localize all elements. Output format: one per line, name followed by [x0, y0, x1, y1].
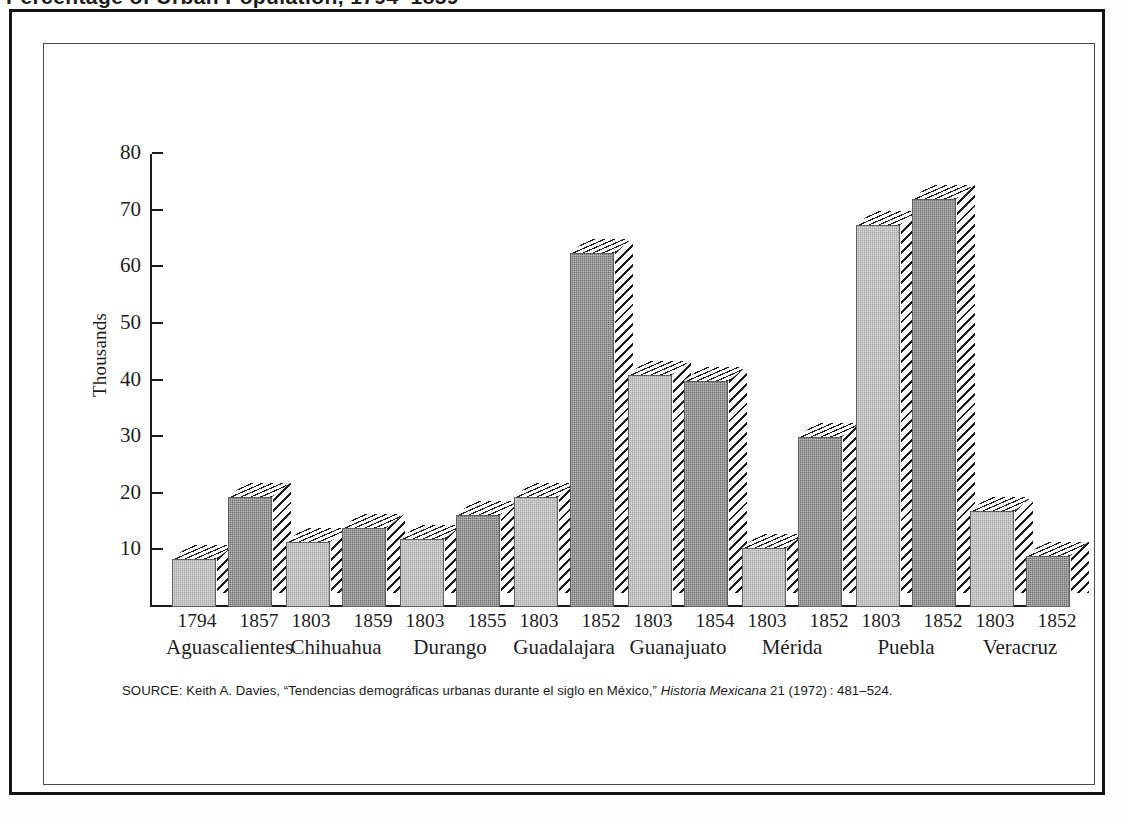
x-year-label: 1794 [166, 610, 228, 632]
x-city-label: Mérida [736, 635, 848, 660]
cut-off-heading: Percentage of Urban Population, 1794–185… [6, 0, 459, 9]
x-city-label: Chihuahua [280, 635, 392, 660]
x-city-label: Puebla [850, 635, 962, 660]
x-label-group-chihuahua: 18031859Chihuahua [280, 610, 392, 660]
x-city-label: Guanajuato [622, 635, 734, 660]
bar-group-aguascalientes [172, 154, 284, 607]
x-year-label: 1803 [280, 610, 342, 632]
bar-aguascalientes-1857 [228, 497, 272, 607]
source-suffix: 21 (1972) : 481–524. [766, 683, 892, 698]
y-tick-60: 60 [150, 265, 163, 267]
bar-front-face [628, 375, 672, 607]
bar-front-face [570, 253, 614, 607]
x-year-label: 1803 [736, 610, 798, 632]
bar-puebla-1803 [856, 225, 900, 607]
figure-outer-border: Thousands 1020304050607080 17941857Aguas… [9, 9, 1105, 795]
bar-guadalajara-1852 [570, 253, 614, 607]
x-year-labels: 18031852 [850, 610, 962, 632]
bar-front-face [1026, 556, 1070, 607]
x-label-group-aguascalientes: 17941857Aguascalientes [166, 610, 278, 660]
y-tick-mark [152, 209, 163, 211]
x-year-label: 1803 [622, 610, 684, 632]
source-prefix: SOURCE: Keith A. Davies, “Tendencias dem… [122, 683, 661, 698]
y-tick-mark [152, 548, 163, 550]
y-tick-label: 70 [120, 197, 141, 222]
x-label-group-mrida: 18031852Mérida [736, 610, 848, 660]
bar-front-face [912, 199, 956, 607]
bar-front-face [742, 548, 786, 607]
bar-chart: Thousands 1020304050607080 17941857Aguas… [44, 44, 1096, 786]
x-city-label: Guadalajara [508, 635, 620, 660]
x-label-group-puebla: 18031852Puebla [850, 610, 962, 660]
bar-guadalajara-1803 [514, 497, 558, 607]
bar-group-veracruz [970, 154, 1082, 607]
y-tick-10: 10 [150, 548, 163, 550]
bar-guanajuato-1854 [684, 381, 728, 608]
cut-off-heading-strip: Percentage of Urban Population, 1794–185… [0, 0, 1121, 9]
bar-front-face [286, 542, 330, 607]
x-city-label: Durango [394, 635, 506, 660]
bar-durango-1855 [456, 515, 500, 607]
y-tick-40: 40 [150, 379, 163, 381]
y-tick-80: 80 [150, 152, 163, 154]
bar-front-face [684, 381, 728, 608]
bar-chihuahua-1859 [342, 528, 386, 607]
y-tick-label: 80 [120, 140, 141, 165]
bar-front-face [970, 511, 1014, 607]
y-tick-label: 60 [120, 253, 141, 278]
bar-group-mrida [742, 154, 854, 607]
y-tick-70: 70 [150, 209, 163, 211]
x-city-label: Veracruz [964, 635, 1076, 660]
y-tick-label: 50 [120, 310, 141, 335]
y-axis-title: Thousands [89, 265, 111, 445]
x-year-label: 1803 [850, 610, 912, 632]
x-year-label: 1803 [508, 610, 570, 632]
bar-veracruz-1852 [1026, 556, 1070, 607]
bar-mrida-1803 [742, 548, 786, 607]
x-label-group-guanajuato: 18031854Guanajuato [622, 610, 734, 660]
y-tick-30: 30 [150, 435, 163, 437]
y-tick-mark [152, 152, 163, 154]
y-tick-50: 50 [150, 322, 163, 324]
x-year-labels: 18031852 [964, 610, 1076, 632]
bar-front-face [514, 497, 558, 607]
figure-inner-border: Thousands 1020304050607080 17941857Aguas… [43, 43, 1095, 785]
x-year-labels: 18031855 [394, 610, 506, 632]
bar-front-face [400, 539, 444, 607]
x-year-labels: 18031859 [280, 610, 392, 632]
x-year-labels: 18031854 [622, 610, 734, 632]
bar-guanajuato-1803 [628, 375, 672, 607]
bar-front-face [856, 225, 900, 607]
y-axis-line [150, 154, 152, 607]
x-year-label: 1803 [964, 610, 1026, 632]
bar-veracruz-1803 [970, 511, 1014, 607]
bar-group-chihuahua [286, 154, 398, 607]
bar-durango-1803 [400, 539, 444, 607]
bar-group-guadalajara [514, 154, 626, 607]
x-year-labels: 18031852 [508, 610, 620, 632]
bar-group-puebla [856, 154, 968, 607]
source-journal: Historia Mexicana [661, 683, 767, 698]
bar-front-face [172, 559, 216, 607]
bar-group-durango [400, 154, 512, 607]
y-tick-mark [152, 435, 163, 437]
x-year-label: 1803 [394, 610, 456, 632]
bar-puebla-1852 [912, 199, 956, 607]
y-tick-mark [152, 379, 163, 381]
bar-chihuahua-1803 [286, 542, 330, 607]
bar-front-face [798, 437, 842, 607]
bar-mrida-1852 [798, 437, 842, 607]
x-label-group-veracruz: 18031852Veracruz [964, 610, 1076, 660]
y-tick-20: 20 [150, 492, 163, 494]
y-tick-label: 20 [120, 480, 141, 505]
x-year-labels: 17941857 [166, 610, 278, 632]
x-year-label: 1852 [1026, 610, 1088, 632]
bar-front-face [228, 497, 272, 607]
bar-aguascalientes-1794 [172, 559, 216, 607]
figure-page: Percentage of Urban Population, 1794–185… [0, 0, 1121, 824]
x-city-label: Aguascalientes [166, 635, 278, 660]
plot-area: 1020304050607080 [150, 154, 1062, 607]
y-tick-label: 40 [120, 367, 141, 392]
x-label-group-guadalajara: 18031852Guadalajara [508, 610, 620, 660]
bar-group-guanajuato [628, 154, 740, 607]
